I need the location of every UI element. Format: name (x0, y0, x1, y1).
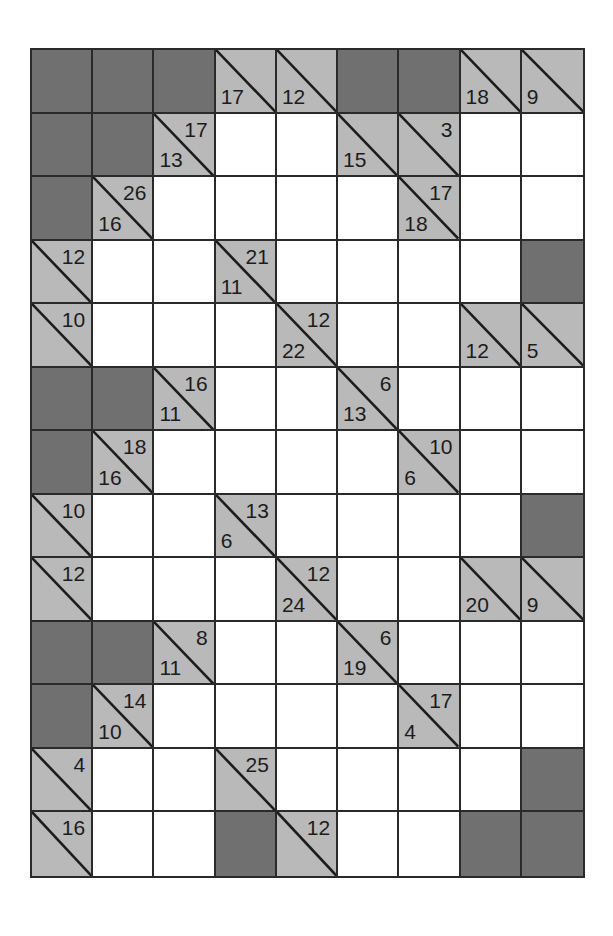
entry-cell[interactable] (154, 241, 215, 305)
clue-cell: 9 (522, 558, 583, 622)
down-clue: 10 (98, 721, 121, 742)
entry-cell[interactable] (216, 368, 277, 432)
entry-cell[interactable] (461, 685, 522, 749)
entry-cell[interactable] (522, 114, 583, 178)
entry-cell[interactable] (399, 241, 460, 305)
block-cell (522, 749, 583, 813)
down-clue: 6 (221, 530, 233, 551)
entry-cell[interactable] (216, 685, 277, 749)
entry-cell[interactable] (154, 177, 215, 241)
across-clue: 12 (307, 563, 330, 584)
entry-cell[interactable] (216, 558, 277, 622)
across-clue: 18 (123, 436, 146, 457)
entry-cell[interactable] (461, 368, 522, 432)
entry-cell[interactable] (277, 495, 338, 559)
entry-cell[interactable] (216, 177, 277, 241)
down-clue: 24 (282, 594, 305, 615)
entry-cell[interactable] (338, 431, 399, 495)
entry-cell[interactable] (338, 812, 399, 876)
across-clue: 17 (429, 690, 452, 711)
entry-cell[interactable] (277, 749, 338, 813)
down-clue: 13 (159, 149, 182, 170)
entry-cell[interactable] (93, 241, 154, 305)
entry-cell[interactable] (277, 431, 338, 495)
entry-cell[interactable] (461, 495, 522, 559)
entry-cell[interactable] (338, 177, 399, 241)
entry-cell[interactable] (399, 812, 460, 876)
entry-cell[interactable] (461, 114, 522, 178)
entry-cell[interactable] (93, 812, 154, 876)
entry-cell[interactable] (277, 368, 338, 432)
entry-cell[interactable] (93, 304, 154, 368)
clue-cell: 174 (399, 685, 460, 749)
entry-cell[interactable] (338, 304, 399, 368)
entry-cell[interactable] (338, 241, 399, 305)
across-clue: 6 (380, 373, 392, 394)
entry-cell[interactable] (154, 812, 215, 876)
entry-cell[interactable] (277, 114, 338, 178)
across-clue: 12 (62, 246, 85, 267)
entry-cell[interactable] (461, 749, 522, 813)
entry-cell[interactable] (522, 622, 583, 686)
entry-cell[interactable] (338, 685, 399, 749)
entry-cell[interactable] (277, 685, 338, 749)
entry-cell[interactable] (522, 177, 583, 241)
entry-cell[interactable] (338, 749, 399, 813)
entry-cell[interactable] (338, 495, 399, 559)
entry-cell[interactable] (154, 558, 215, 622)
entry-cell[interactable] (461, 431, 522, 495)
entry-cell[interactable] (216, 431, 277, 495)
kakuro-board: 1712189171315326161718122111101222125161… (30, 48, 585, 878)
block-cell (32, 50, 93, 114)
entry-cell[interactable] (93, 558, 154, 622)
across-clue: 10 (429, 436, 452, 457)
clue-cell: 2616 (93, 177, 154, 241)
across-clue: 25 (246, 754, 269, 775)
entry-cell[interactable] (216, 304, 277, 368)
entry-cell[interactable] (93, 749, 154, 813)
entry-cell[interactable] (93, 495, 154, 559)
block-cell (522, 495, 583, 559)
entry-cell[interactable] (522, 685, 583, 749)
entry-cell[interactable] (399, 368, 460, 432)
clue-cell: 12 (277, 812, 338, 876)
block-cell (32, 622, 93, 686)
entry-cell[interactable] (399, 304, 460, 368)
entry-cell[interactable] (154, 749, 215, 813)
across-clue: 17 (184, 119, 207, 140)
entry-cell[interactable] (522, 368, 583, 432)
entry-cell[interactable] (338, 558, 399, 622)
down-clue: 17 (221, 86, 244, 107)
block-cell (93, 50, 154, 114)
clue-cell: 15 (338, 114, 399, 178)
entry-cell[interactable] (154, 495, 215, 559)
entry-cell[interactable] (277, 241, 338, 305)
clue-cell: 613 (338, 368, 399, 432)
entry-cell[interactable] (154, 304, 215, 368)
entry-cell[interactable] (399, 558, 460, 622)
entry-cell[interactable] (216, 114, 277, 178)
entry-cell[interactable] (399, 749, 460, 813)
clue-cell: 1718 (399, 177, 460, 241)
down-clue: 18 (404, 213, 427, 234)
clue-cell: 4 (32, 749, 93, 813)
entry-cell[interactable] (399, 495, 460, 559)
clue-cell: 1224 (277, 558, 338, 622)
across-clue: 16 (62, 817, 85, 838)
entry-cell[interactable] (399, 622, 460, 686)
clue-cell: 20 (461, 558, 522, 622)
across-clue: 16 (184, 373, 207, 394)
entry-cell[interactable] (461, 622, 522, 686)
entry-cell[interactable] (154, 431, 215, 495)
entry-cell[interactable] (461, 177, 522, 241)
entry-cell[interactable] (154, 685, 215, 749)
clue-cell: 10 (32, 495, 93, 559)
entry-cell[interactable] (277, 622, 338, 686)
entry-cell[interactable] (461, 241, 522, 305)
entry-cell[interactable] (522, 431, 583, 495)
entry-cell[interactable] (216, 622, 277, 686)
entry-cell[interactable] (277, 177, 338, 241)
clue-cell: 1713 (154, 114, 215, 178)
across-clue: 26 (123, 182, 146, 203)
down-clue: 15 (343, 149, 366, 170)
